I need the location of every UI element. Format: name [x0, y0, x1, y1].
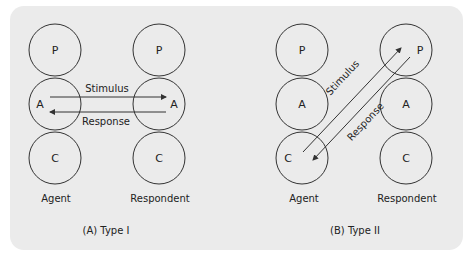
- type2-response-label: Response: [345, 100, 386, 143]
- type1-respondent-parent: P: [156, 44, 163, 57]
- type1-agent-parent: P: [52, 44, 59, 57]
- type2-respondent-adult: A: [402, 98, 410, 111]
- type1-agent-label: Agent: [41, 193, 71, 204]
- type2-agent-parent: P: [299, 44, 306, 57]
- type1-stimulus-label: Stimulus: [85, 83, 128, 94]
- type2-respondent-child: C: [402, 152, 410, 165]
- type2-agent-adult: A: [298, 98, 306, 111]
- type2-stimulus-label: Stimulus: [324, 58, 362, 97]
- transaction-diagram: P A C P A C Stimulus Response Agent Resp…: [0, 0, 474, 258]
- type1-respondent-adult: A: [170, 98, 178, 111]
- type1-caption: (A) Type I: [83, 225, 130, 236]
- type1-respondent-child: C: [155, 152, 163, 165]
- type2-respondent-parent: P: [417, 44, 424, 57]
- type2-caption: (B) Type II: [330, 225, 380, 236]
- type2-agent-label: Agent: [289, 193, 319, 204]
- type1-respondent-label: Respondent: [130, 193, 190, 204]
- type1-agent-child: C: [51, 152, 59, 165]
- type1-agent-adult: A: [36, 98, 44, 111]
- type2-respondent-label: Respondent: [377, 193, 437, 204]
- type1-response-label: Response: [82, 116, 130, 127]
- type2-agent-child: C: [284, 152, 292, 165]
